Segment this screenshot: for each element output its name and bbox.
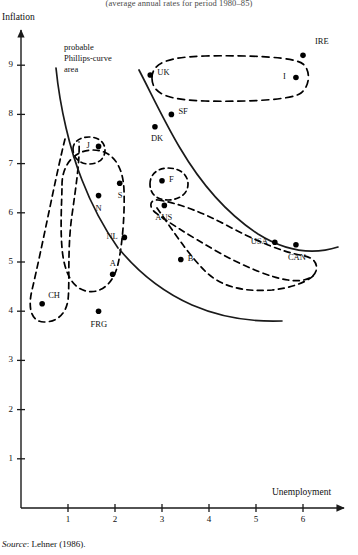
- data-point-ire[interactable]: [300, 53, 306, 59]
- x-tick-label-6: 6: [296, 514, 310, 524]
- data-label-s: S: [118, 191, 123, 200]
- phillips-curve-figure: (average annual rates for period 1980–85…: [0, 0, 358, 555]
- data-label-dk: DK: [151, 134, 163, 143]
- x-tick-label-3: 3: [155, 514, 169, 524]
- north-america-lower-arc: [157, 208, 313, 290]
- data-label-f: F: [169, 175, 174, 184]
- data-point-can[interactable]: [293, 242, 299, 248]
- data-point-n[interactable]: [96, 193, 102, 199]
- phillips-area-line-3: area: [64, 64, 112, 75]
- data-point-frg[interactable]: [96, 308, 102, 314]
- data-label-n: N: [96, 204, 102, 213]
- data-point-f[interactable]: [159, 178, 165, 184]
- y-tick-label-6: 6: [0, 207, 13, 217]
- y-tick-label-4: 4: [0, 305, 13, 315]
- data-label-sf: SF: [178, 107, 187, 116]
- x-tick-label-4: 4: [202, 514, 216, 524]
- data-label-j: J: [87, 141, 90, 150]
- data-point-aus[interactable]: [162, 203, 168, 209]
- data-point-i[interactable]: [293, 75, 299, 81]
- data-point-s[interactable]: [117, 180, 123, 186]
- phillips-curve-lower: [120, 250, 282, 321]
- data-label-usa: USA: [251, 237, 268, 246]
- data-label-ire: IRE: [315, 37, 329, 46]
- x-tick-label-5: 5: [249, 514, 263, 524]
- data-point-usa[interactable]: [272, 240, 278, 246]
- data-point-ch[interactable]: [39, 301, 45, 307]
- phillips-curve-upper-left: [56, 68, 118, 248]
- axes: [21, 30, 344, 508]
- y-tick-label-1: 1: [0, 453, 13, 463]
- data-label-can: CAN: [288, 253, 306, 262]
- y-tick-label-7: 7: [0, 158, 13, 168]
- plot-canvas: [0, 0, 358, 555]
- y-tick-label-9: 9: [0, 59, 13, 69]
- phillips-area-line-1: probable: [64, 42, 112, 53]
- y-tick-label-5: 5: [0, 256, 13, 266]
- north-america-cluster: [151, 200, 317, 281]
- x-tick-label-2: 2: [108, 514, 122, 524]
- data-point-b[interactable]: [178, 257, 184, 263]
- data-label-b: B: [188, 254, 194, 263]
- data-point-a[interactable]: [110, 272, 116, 278]
- france-cluster: [150, 168, 188, 200]
- data-point-nl[interactable]: [122, 235, 128, 241]
- y-tick-label-2: 2: [0, 404, 13, 414]
- cluster-outlines: [30, 56, 316, 322]
- source-text: : Lehner (1986).: [27, 539, 86, 549]
- data-label-a: A: [110, 259, 116, 268]
- phillips-area-annotation: probable Phillips-curve area: [64, 42, 112, 75]
- data-label-i: I: [283, 72, 286, 81]
- data-label-ch: CH: [48, 291, 60, 300]
- data-label-nl: NL: [106, 232, 117, 241]
- data-point-sf[interactable]: [169, 112, 175, 118]
- data-point-j[interactable]: [96, 144, 102, 150]
- data-label-aus: AUS: [155, 213, 172, 222]
- source-prefix: Source: [2, 539, 27, 549]
- x-tick-label-1: 1: [61, 514, 75, 524]
- data-point-uk[interactable]: [147, 72, 153, 78]
- data-point-dk[interactable]: [152, 124, 158, 130]
- figure-source: Source: Lehner (1986).: [2, 539, 85, 549]
- data-label-uk: UK: [157, 68, 169, 77]
- y-tick-label-3: 3: [0, 354, 13, 364]
- phillips-area-line-2: Phillips-curve: [64, 53, 112, 64]
- y-tick-label-8: 8: [0, 108, 13, 118]
- data-label-frg: FRG: [91, 320, 108, 329]
